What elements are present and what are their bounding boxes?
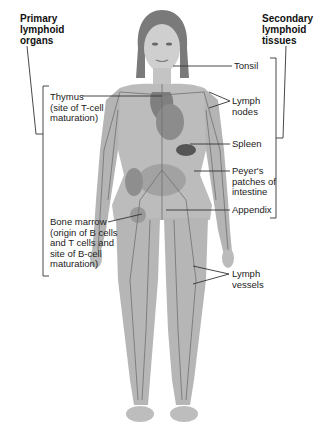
primary-connector-line [27, 46, 43, 134]
primary-lymphoid-organs-heading: Primary lymphoid organs [20, 13, 64, 46]
lymph-vessels-label: Lymph vessels [232, 269, 264, 290]
bone-marrow-label: Bone marrow (origin of B cells and T cel… [50, 217, 118, 270]
appendix-label: Appendix [232, 205, 272, 216]
peyers-patches-label: Peyer's patches of intestine [232, 166, 276, 198]
primary-bracket [43, 86, 49, 276]
lymphoid-system-diagram: Primary lymphoid organs Secondary lympho… [0, 0, 323, 438]
secondary-lymphoid-tissues-heading: Secondary lymphoid tissues [262, 13, 313, 46]
right-leg [116, 218, 160, 405]
head [144, 24, 180, 72]
spleen-organ [176, 144, 196, 156]
secondary-connector-line [276, 46, 286, 138]
left-arm [204, 88, 232, 255]
heart-area [156, 104, 184, 140]
thymus-label: Thymus (site of T-cell maturation) [50, 92, 104, 124]
human-body-illustration [0, 0, 323, 438]
tonsil-label: Tonsil [234, 61, 258, 72]
lymph-nodes-label: Lymph nodes [232, 96, 260, 117]
left-leg [164, 218, 208, 405]
spleen-label: Spleen [232, 139, 262, 150]
